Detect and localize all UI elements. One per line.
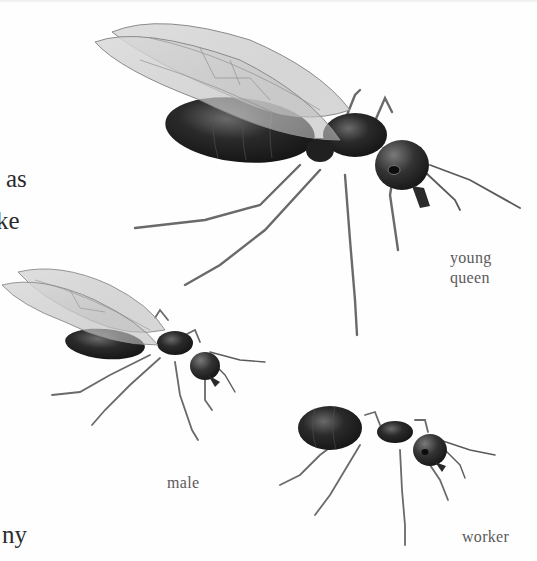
queen-head <box>375 140 429 190</box>
caption-young-queen-line-2: queen <box>450 268 492 288</box>
caption-young-queen: young queen <box>450 248 492 288</box>
caption-male-line-1: male <box>167 473 199 493</box>
queen-antennae <box>425 165 520 210</box>
worker-abdomen <box>298 406 362 450</box>
caption-male: male <box>167 473 199 493</box>
male-head <box>190 352 220 380</box>
young-queen-ant <box>95 24 520 335</box>
worker-ant <box>280 406 495 545</box>
caption-worker-line-1: worker <box>462 527 509 547</box>
worker-head <box>413 434 447 466</box>
male-thorax <box>157 331 193 355</box>
worker-thorax <box>377 421 413 443</box>
male-ant <box>2 269 265 440</box>
caption-worker: worker <box>462 527 509 547</box>
worker-antennae <box>440 440 495 478</box>
book-page: as ke ny <box>0 0 537 561</box>
caption-young-queen-line-1: young <box>450 248 492 268</box>
